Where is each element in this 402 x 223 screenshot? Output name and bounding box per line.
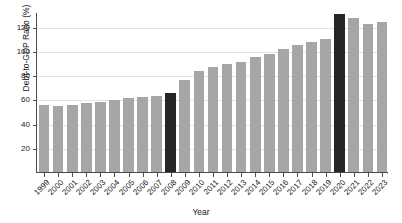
- x-tick-2022: [368, 173, 369, 177]
- bar-2010: [194, 71, 205, 172]
- bar-2008: [165, 93, 176, 172]
- bar-2006: [137, 97, 148, 172]
- x-tick-2017: [297, 173, 298, 177]
- x-tick-2009: [185, 173, 186, 177]
- bar-2000: [53, 106, 64, 172]
- bar-2023: [377, 22, 388, 172]
- x-tick-2011: [213, 173, 214, 177]
- x-tick-2002: [86, 173, 87, 177]
- y-tick-120: [33, 28, 37, 29]
- bar-2016: [278, 49, 289, 172]
- bar-2019: [320, 39, 331, 172]
- bar-2012: [222, 64, 233, 172]
- bar-2017: [292, 45, 303, 172]
- x-tick-2007: [157, 173, 158, 177]
- x-tick-2019: [326, 173, 327, 177]
- bar-2009: [179, 80, 190, 172]
- bar-2004: [109, 100, 120, 172]
- x-tick-2023: [382, 173, 383, 177]
- x-tick-2008: [171, 173, 172, 177]
- bar-2022: [363, 24, 374, 172]
- bar-2005: [123, 98, 134, 172]
- y-tick-label-120: 120: [8, 24, 30, 32]
- bar-2001: [67, 105, 78, 172]
- x-tick-2016: [283, 173, 284, 177]
- x-tick-1999: [44, 173, 45, 177]
- x-tick-2003: [100, 173, 101, 177]
- x-tick-2018: [312, 173, 313, 177]
- y-tick-label-80: 80: [8, 72, 30, 80]
- x-tick-2006: [143, 173, 144, 177]
- plot-area: [36, 13, 388, 173]
- y-tick-label-40: 40: [8, 121, 30, 129]
- x-tick-2021: [354, 173, 355, 177]
- bar-chart: Debt-to-GDP Ratio (%) 20406080100120 199…: [0, 0, 402, 223]
- x-tick-2000: [58, 173, 59, 177]
- y-tick-20: [33, 149, 37, 150]
- bar-2015: [264, 54, 275, 172]
- y-tick-60: [33, 100, 37, 101]
- bar-2007: [151, 96, 162, 172]
- x-tick-2020: [340, 173, 341, 177]
- bar-2013: [236, 62, 247, 172]
- x-tick-2004: [114, 173, 115, 177]
- x-axis-title: Year: [0, 207, 402, 217]
- bar-2003: [95, 102, 106, 172]
- x-tick-2012: [227, 173, 228, 177]
- x-tick-2005: [129, 173, 130, 177]
- bar-2021: [348, 18, 359, 172]
- y-tick-100: [33, 52, 37, 53]
- y-tick-40: [33, 125, 37, 126]
- y-tick-label-20: 20: [8, 145, 30, 153]
- x-tick-2015: [269, 173, 270, 177]
- y-tick-label-60: 60: [8, 96, 30, 104]
- x-tick-2001: [72, 173, 73, 177]
- y-tick-80: [33, 76, 37, 77]
- y-tick-label-100: 100: [8, 48, 30, 56]
- x-tick-2010: [199, 173, 200, 177]
- bar-1999: [39, 105, 50, 172]
- x-tick-2013: [241, 173, 242, 177]
- bar-2002: [81, 103, 92, 172]
- x-tick-2014: [255, 173, 256, 177]
- bar-2020: [334, 14, 345, 172]
- bar-2018: [306, 42, 317, 172]
- bar-2011: [208, 67, 219, 172]
- bar-2014: [250, 57, 261, 172]
